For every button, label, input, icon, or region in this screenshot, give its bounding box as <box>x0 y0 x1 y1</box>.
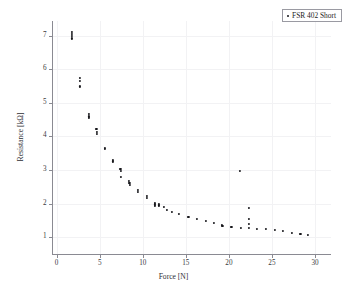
x-axis-tick-label: 0 <box>55 260 59 267</box>
y-axis-tick <box>49 237 52 238</box>
x-axis-spine <box>52 254 331 255</box>
x-axis-tick <box>57 255 58 258</box>
y-axis-tick <box>49 170 52 171</box>
legend-marker-dot-icon <box>287 15 289 17</box>
x-axis-tick <box>100 255 101 258</box>
y-axis-tick <box>49 103 52 104</box>
y-axis-tick-label: 1 <box>35 234 47 241</box>
x-axis-tick-label: 20 <box>225 260 232 267</box>
x-axis-label: Force [N] <box>0 272 347 281</box>
grid-line-vertical <box>57 21 58 254</box>
x-axis-tick-label: 10 <box>139 260 146 267</box>
grid-line-vertical <box>143 21 144 254</box>
grid-line-horizontal <box>52 103 331 104</box>
grid-line-vertical <box>315 21 316 254</box>
grid-line-horizontal <box>52 136 331 137</box>
y-axis-label-wrapper: Resistance [kΩ] <box>16 17 28 257</box>
grid-line-horizontal <box>52 69 331 70</box>
y-axis-tick <box>49 204 52 205</box>
grid-line-vertical <box>272 21 273 254</box>
grid-line-horizontal <box>52 36 331 37</box>
y-axis-tick <box>49 69 52 70</box>
y-axis-spine <box>52 21 53 254</box>
x-axis-tick <box>143 255 144 258</box>
grid-line-vertical <box>186 21 187 254</box>
x-axis-tick-label: 15 <box>182 260 189 267</box>
grid-line-horizontal <box>52 170 331 171</box>
x-axis-tick-label: 30 <box>311 260 318 267</box>
plot-area <box>52 21 331 254</box>
x-axis-tick-label: 25 <box>268 260 275 267</box>
grid-line-horizontal <box>52 237 331 238</box>
x-axis-tick <box>229 255 230 258</box>
scatter-plot-figure: 0510152025301234567 Force [N] Resistance… <box>0 0 347 296</box>
legend: FSR 402 Short <box>282 9 342 22</box>
y-axis-label: Resistance [kΩ] <box>16 17 25 257</box>
x-axis-tick <box>315 255 316 258</box>
grid-line-vertical <box>100 21 101 254</box>
x-axis-tick-label: 5 <box>98 260 102 267</box>
y-axis-tick <box>49 136 52 137</box>
x-axis-tick <box>186 255 187 258</box>
y-axis-tick-label: 6 <box>35 66 47 73</box>
legend-entry-label: FSR 402 Short <box>292 12 336 19</box>
x-axis-tick <box>272 255 273 258</box>
y-axis-tick-label: 7 <box>35 32 47 39</box>
grid-line-vertical <box>229 21 230 254</box>
y-axis-tick-label: 4 <box>35 133 47 140</box>
grid-line-horizontal <box>52 204 331 205</box>
y-axis-tick-label: 2 <box>35 200 47 207</box>
y-axis-tick-label: 5 <box>35 99 47 106</box>
y-axis-tick-label: 3 <box>35 167 47 174</box>
y-axis-tick <box>49 36 52 37</box>
